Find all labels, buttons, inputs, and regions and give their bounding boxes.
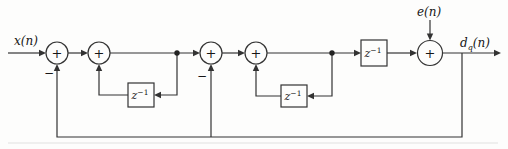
arrow-right-icon	[354, 50, 361, 56]
output-signal-label: dq(n)	[460, 36, 490, 52]
minus-sign: −	[197, 69, 207, 83]
branch-node	[329, 50, 334, 55]
loop1-input-line	[161, 53, 177, 95]
arrow-right-icon	[410, 50, 417, 56]
signal-paths	[8, 20, 495, 137]
delay-exponent: −1	[137, 88, 148, 97]
loop1-return-line	[99, 71, 128, 95]
arrow-up-icon	[208, 64, 214, 71]
delay-exponent: −1	[290, 89, 301, 98]
loop2-input-line	[314, 53, 332, 96]
arrow-left-icon	[154, 92, 161, 98]
arrow-up-icon	[96, 64, 102, 71]
arrow-up-icon	[54, 64, 60, 71]
diagram-canvas: + + + + + − − z−1 z−1 z−1 x(n) e(n) dq(n…	[0, 0, 508, 149]
arrow-right-icon	[81, 50, 88, 56]
arrow-right-icon	[39, 50, 46, 56]
error-signal-label: e(n)	[417, 5, 442, 19]
plus-sign: +	[52, 46, 63, 61]
delay-exponent: −1	[370, 46, 381, 55]
arrow-right-icon	[238, 50, 245, 56]
loop2-return-line	[256, 71, 281, 96]
plus-sign: +	[94, 46, 105, 61]
plus-sign: +	[425, 46, 436, 61]
block-diagram: + + + + + − − z−1 z−1 z−1 x(n) e(n) dq(n…	[0, 0, 508, 149]
input-signal-label: x(n)	[14, 34, 38, 48]
branch-node	[174, 50, 179, 55]
minus-sign: −	[44, 66, 54, 80]
arrow-right-icon	[494, 50, 501, 56]
arrow-up-icon	[253, 64, 259, 71]
arrow-down-icon	[427, 34, 433, 41]
arrow-left-icon	[307, 93, 314, 99]
plus-sign: +	[206, 46, 217, 61]
arrow-right-icon	[193, 50, 200, 56]
output-argument: (n)	[473, 36, 490, 50]
plus-sign: +	[251, 46, 262, 61]
